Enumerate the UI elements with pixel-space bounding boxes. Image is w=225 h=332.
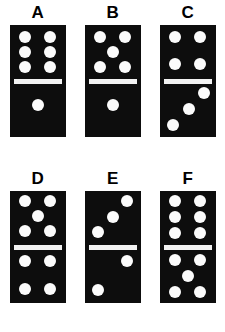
domino-bottom-half-b: [85, 84, 141, 138]
domino-tile-e[interactable]: [85, 191, 141, 303]
domino-tile-a[interactable]: [10, 25, 66, 137]
domino-bottom-half-d: [10, 250, 66, 304]
pip: [107, 211, 119, 223]
pip: [32, 210, 44, 222]
pip: [169, 286, 181, 298]
domino-label-e: E: [107, 170, 118, 187]
pip: [194, 286, 206, 298]
pip: [44, 283, 56, 295]
domino-bottom-half-e: [85, 250, 141, 304]
pip: [167, 119, 179, 131]
domino-cell-e[interactable]: E: [75, 166, 150, 332]
pip: [19, 225, 31, 237]
domino-cell-d[interactable]: D: [0, 166, 75, 332]
domino-puzzle-grid: ABCDEF: [0, 0, 225, 332]
domino-label-a: A: [32, 4, 44, 21]
pip: [44, 195, 56, 207]
domino-top-half-c: [160, 25, 216, 79]
domino-label-c: C: [182, 4, 194, 21]
pip: [194, 211, 206, 223]
pip: [32, 99, 44, 111]
domino-top-half-f: [160, 191, 216, 245]
pip: [169, 254, 181, 266]
pip: [44, 225, 56, 237]
domino-label-d: D: [32, 170, 44, 187]
pip: [44, 31, 56, 43]
pip: [107, 46, 119, 58]
domino-bottom-half-f: [160, 250, 216, 304]
domino-tile-f[interactable]: [160, 191, 216, 303]
pip: [169, 211, 181, 223]
pip: [19, 46, 31, 58]
pip: [119, 31, 131, 43]
domino-cell-a[interactable]: A: [0, 0, 75, 166]
pip: [92, 284, 104, 296]
pip: [194, 58, 206, 70]
domino-cell-b[interactable]: B: [75, 0, 150, 166]
pip: [19, 61, 31, 73]
pip: [19, 255, 31, 267]
domino-top-half-d: [10, 191, 66, 245]
pip: [19, 31, 31, 43]
domino-top-half-b: [85, 25, 141, 79]
pip: [44, 255, 56, 267]
pip: [94, 61, 106, 73]
domino-cell-c[interactable]: C: [150, 0, 225, 166]
domino-bottom-half-c: [160, 84, 216, 138]
pip: [169, 227, 181, 239]
pip: [198, 87, 210, 99]
pip: [121, 195, 133, 207]
domino-tile-c[interactable]: [160, 25, 216, 137]
pip: [183, 103, 195, 115]
pip: [19, 283, 31, 295]
pip: [182, 270, 194, 282]
pip: [169, 58, 181, 70]
domino-tile-b[interactable]: [85, 25, 141, 137]
pip: [94, 31, 106, 43]
domino-cell-f[interactable]: F: [150, 166, 225, 332]
pip: [44, 46, 56, 58]
domino-top-half-e: [85, 191, 141, 245]
pip: [119, 61, 131, 73]
domino-top-half-a: [10, 25, 66, 79]
pip: [19, 195, 31, 207]
pip: [194, 195, 206, 207]
pip: [169, 31, 181, 43]
pip: [194, 227, 206, 239]
pip: [194, 254, 206, 266]
pip: [169, 195, 181, 207]
domino-label-b: B: [107, 4, 119, 21]
domino-bottom-half-a: [10, 84, 66, 138]
pip: [44, 61, 56, 73]
domino-label-f: F: [183, 170, 193, 187]
pip: [107, 99, 119, 111]
pip: [92, 226, 104, 238]
pip: [121, 255, 133, 267]
pip: [194, 31, 206, 43]
domino-tile-d[interactable]: [10, 191, 66, 303]
